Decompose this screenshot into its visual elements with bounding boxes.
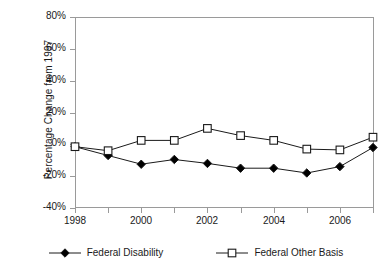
- x-axis-tick-mark: [108, 208, 109, 213]
- x-axis-tick-mark: [340, 208, 341, 213]
- x-axis-tick-mark: [174, 208, 175, 213]
- y-axis-tick-label: -20%: [6, 169, 66, 180]
- y-axis-tick-mark: [70, 49, 75, 50]
- y-axis-tick-mark: [70, 17, 75, 18]
- open-square-icon: [215, 247, 249, 259]
- chart-legend: Federal DisabilityFederal Other Basis: [0, 243, 391, 263]
- y-axis-tick-mark: [70, 144, 75, 145]
- x-axis-tick-label: 2000: [111, 215, 171, 226]
- x-axis-tick-mark: [307, 208, 308, 213]
- y-axis-tick-label: 20%: [6, 106, 66, 117]
- x-axis-tick-mark: [274, 208, 275, 213]
- x-axis-tick-label: 2004: [244, 215, 304, 226]
- y-axis-tick-label: 60%: [6, 42, 66, 53]
- filled-diamond-icon: [48, 247, 82, 259]
- y-axis-tick-label: 0%: [6, 137, 66, 148]
- legend-item-label: Federal Disability: [87, 247, 164, 259]
- x-axis-tick-mark: [241, 208, 242, 213]
- legend-item[interactable]: Federal Other Basis: [215, 247, 343, 259]
- plot-top-border: [75, 17, 374, 18]
- plot-area: [75, 17, 373, 208]
- x-axis-tick-label: 2006: [310, 215, 370, 226]
- chart-container: Percentage Change from 1997 80%60%40%20%…: [0, 0, 391, 270]
- x-axis-tick-label: 1998: [45, 215, 105, 226]
- y-axis-tick-mark: [70, 176, 75, 177]
- y-axis-tick-mark: [70, 81, 75, 82]
- x-axis-tick-mark: [75, 208, 76, 213]
- y-axis-tick-mark: [70, 113, 75, 114]
- x-axis-tick-mark: [141, 208, 142, 213]
- y-axis-tick-label: -40%: [6, 201, 66, 212]
- legend-item[interactable]: Federal Disability: [48, 247, 164, 259]
- y-axis-tick-label: 80%: [6, 10, 66, 21]
- x-axis-tick-mark: [373, 208, 374, 213]
- x-axis-tick-label: 2002: [177, 215, 237, 226]
- y-axis-tick-label: 40%: [6, 74, 66, 85]
- x-axis-tick-mark: [207, 208, 208, 213]
- plot-right-border: [373, 17, 374, 209]
- legend-item-label: Federal Other Basis: [254, 247, 343, 259]
